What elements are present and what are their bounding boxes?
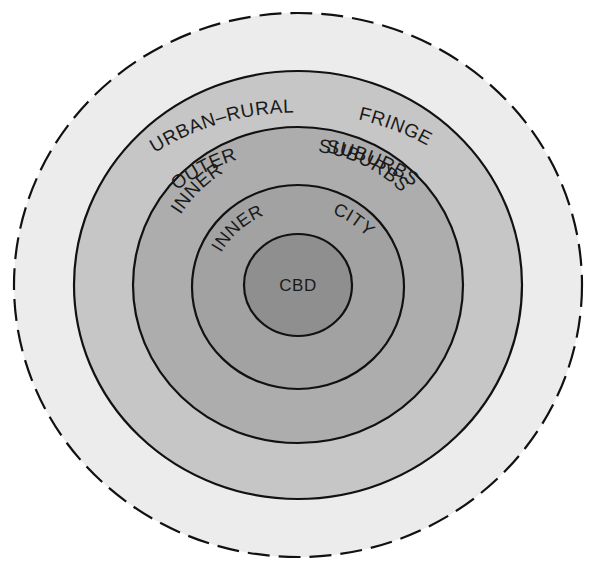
urban-zones-diagram: URBAN–RURAL FRINGE OUTER SUBURBS INNER S… xyxy=(0,0,589,564)
label-cbd: CBD xyxy=(279,276,316,295)
